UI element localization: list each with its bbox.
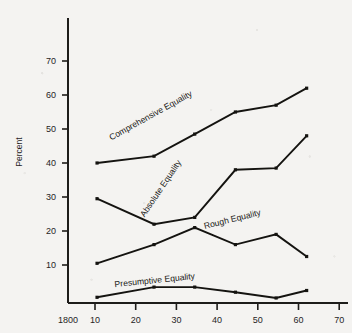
- x-axis-tick-label: 40: [212, 315, 222, 325]
- series-point: [305, 134, 308, 137]
- series-label-group: Comprehensive EqualityAbsolute EqualityR…: [107, 88, 262, 289]
- y-axis-tick-label: 40: [46, 158, 56, 168]
- series-point: [275, 167, 278, 170]
- series-point: [234, 243, 237, 246]
- x-axis-tick-label: 1800: [58, 315, 78, 325]
- series-point: [305, 255, 308, 258]
- series-point: [152, 286, 155, 289]
- series-point: [234, 291, 237, 294]
- series-point: [305, 289, 308, 292]
- series-point: [275, 296, 278, 299]
- x-axis-tick-label: 30: [171, 315, 181, 325]
- series-point: [193, 226, 196, 229]
- series-point: [95, 296, 98, 299]
- series-label-comprehensive-equality: Comprehensive Equality: [107, 88, 194, 142]
- line-chart-canvas: 10203040506070 180010203040506070 Percen…: [0, 0, 352, 333]
- x-axis-tick-label: 70: [334, 315, 344, 325]
- series-label-absolute-equality: Absolute Equality: [138, 157, 184, 218]
- series-point: [305, 87, 308, 90]
- x-axis-tick-group: 180010203040506070: [58, 303, 344, 325]
- y-axis-tick-group: 10203040506070: [46, 56, 68, 270]
- y-axis-tick-label: 70: [46, 56, 56, 66]
- chart-figure: 10203040506070 180010203040506070 Percen…: [0, 0, 352, 333]
- y-axis-tick-label: 10: [46, 260, 56, 270]
- y-axis-tick-label: 60: [46, 90, 56, 100]
- series-point: [234, 110, 237, 113]
- series-point: [193, 216, 196, 219]
- series-label-rough-equality: Rough Equality: [203, 207, 263, 231]
- series-line-presumptive-equality: [97, 287, 307, 298]
- series-point: [95, 262, 98, 265]
- x-axis-tick-label: 20: [131, 315, 141, 325]
- series-point: [234, 168, 237, 171]
- series-point: [275, 233, 278, 236]
- series-line-absolute-equality: [97, 136, 307, 224]
- y-axis-tick-label: 50: [46, 124, 56, 134]
- x-axis-tick-label: 60: [293, 315, 303, 325]
- series-point: [193, 286, 196, 289]
- series-point: [275, 104, 278, 107]
- x-axis-tick-label: 50: [253, 315, 263, 325]
- series-point: [152, 243, 155, 246]
- series-point: [152, 223, 155, 226]
- series-point: [95, 161, 98, 164]
- y-axis-tick-label: 20: [46, 226, 56, 236]
- series-group: [95, 87, 308, 300]
- series-point: [152, 155, 155, 158]
- y-axis-title: Percent: [14, 137, 24, 167]
- series-point: [95, 197, 98, 200]
- y-axis-tick-label: 30: [46, 192, 56, 202]
- x-axis-tick-label: 10: [90, 315, 100, 325]
- series-point: [193, 133, 196, 136]
